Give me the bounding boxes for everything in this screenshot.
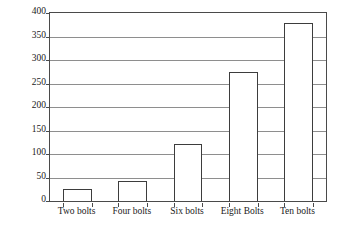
y-axis-tick-mark bbox=[46, 178, 50, 179]
x-axis-tick-label: Ten bolts bbox=[270, 206, 325, 217]
y-axis-tick-mark bbox=[46, 60, 50, 61]
y-axis-tick-mark bbox=[46, 201, 50, 202]
y-axis-tick-mark bbox=[46, 154, 50, 155]
plot-area bbox=[49, 12, 327, 202]
y-axis-tick-label: 350 bbox=[20, 31, 46, 41]
y-axis-tick-mark bbox=[46, 13, 50, 14]
y-axis-tick-mark bbox=[46, 107, 50, 108]
y-axis-tick-label: 250 bbox=[20, 78, 46, 88]
bar bbox=[118, 181, 147, 201]
x-axis-tick-label: Four bolts bbox=[104, 206, 159, 217]
y-axis-tick-label: 200 bbox=[20, 101, 46, 111]
y-axis-tick-label: 400 bbox=[20, 7, 46, 17]
y-axis-tick-labels: 050100150200250300350400 bbox=[20, 0, 46, 233]
x-axis-tick-labels: Two boltsFour boltsSix boltsEight BoltsT… bbox=[49, 206, 327, 222]
y-axis-tick-label: 50 bbox=[20, 172, 46, 182]
y-axis-tick-label: 300 bbox=[20, 54, 46, 64]
y-axis-tick-label: 150 bbox=[20, 125, 46, 135]
y-axis-tick-mark bbox=[46, 131, 50, 132]
bar bbox=[63, 189, 92, 201]
x-axis-tick-label: Six bolts bbox=[159, 206, 214, 217]
y-axis-tick-label: 100 bbox=[20, 148, 46, 158]
bar bbox=[174, 144, 203, 201]
y-axis-tick-label: 0 bbox=[20, 195, 46, 205]
bar bbox=[284, 23, 313, 201]
x-axis-tick-label: Two bolts bbox=[49, 206, 104, 217]
y-axis-tick-mark bbox=[46, 84, 50, 85]
x-axis-tick-label: Eight Bolts bbox=[215, 206, 270, 217]
y-axis-tick-mark bbox=[46, 37, 50, 38]
bar bbox=[229, 72, 258, 201]
bar-chart: Damage Metric 050100150200250300350400 T… bbox=[0, 0, 347, 233]
